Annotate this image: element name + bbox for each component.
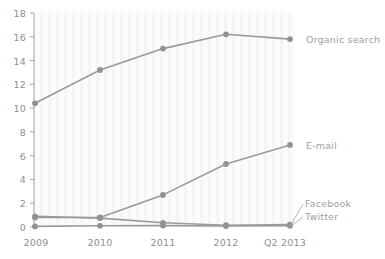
y-tick-label-6: 6 xyxy=(8,152,26,162)
y-tick-label-16: 16 xyxy=(8,33,26,43)
series-label-email: E-mail xyxy=(306,141,337,151)
x-tick-label-2011: 2011 xyxy=(151,238,176,248)
x-tick-label-2009: 2009 xyxy=(24,238,49,248)
series-label-organic-search: Organic search xyxy=(306,35,380,45)
x-tick-label-2010: 2010 xyxy=(88,238,113,248)
x-tick-label-2012: 2012 xyxy=(214,238,239,248)
y-tick-label-14: 14 xyxy=(8,57,26,67)
y-axis-ticks xyxy=(30,13,34,227)
series-label-facebook: Facebook xyxy=(305,199,351,209)
y-tick-label-8: 8 xyxy=(8,128,26,138)
y-tick-label-4: 4 xyxy=(8,175,26,185)
y-tick-label-10: 10 xyxy=(8,104,26,114)
chart-container: 18 16 14 12 10 8 6 4 2 0 2009 2010 2011 … xyxy=(0,0,385,259)
y-tick-label-0: 0 xyxy=(8,223,26,233)
y-tick-label-18: 18 xyxy=(8,9,26,19)
y-tick-label-2: 2 xyxy=(8,199,26,209)
series-label-twitter: Twitter xyxy=(305,212,338,222)
y-tick-label-12: 12 xyxy=(8,80,26,90)
x-tick-label-q2-2013: Q2 2013 xyxy=(264,238,306,248)
